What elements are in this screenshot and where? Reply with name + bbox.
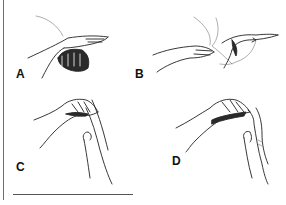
panel-c-drawing <box>34 99 112 184</box>
panel-a-drawing <box>28 16 108 78</box>
panel-d-drawing <box>176 99 268 184</box>
panel-label-c: C <box>16 161 25 173</box>
hand-sign-figure: A B C D <box>0 0 286 205</box>
hand-illustrations <box>0 0 286 205</box>
panel-label-d: D <box>172 155 181 167</box>
panel-b-drawing <box>153 17 278 72</box>
footnote-divider-line <box>13 194 133 195</box>
panel-label-b: B <box>135 68 144 80</box>
panel-label-a: A <box>16 68 25 80</box>
